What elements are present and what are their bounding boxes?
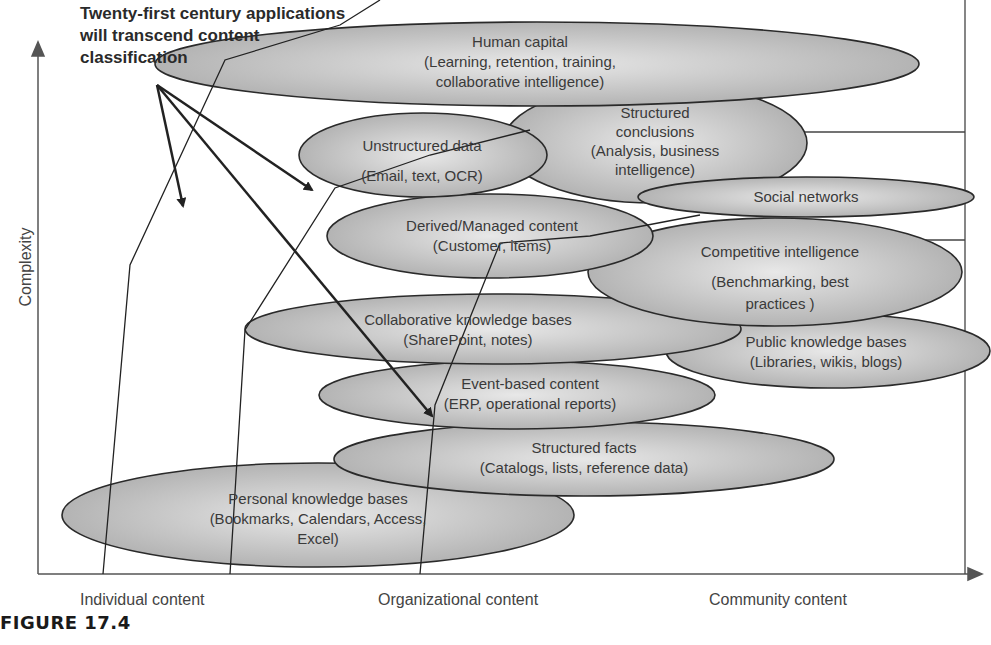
x-axis-label-organizational: Organizational content xyxy=(378,591,538,609)
annotation-note: Twenty-first century applications will t… xyxy=(80,3,345,69)
label-structured-conclusions: Structuredconclusions(Analysis, business… xyxy=(591,103,719,179)
label-derived-managed: Derived/Managed content(Customer, items) xyxy=(406,216,578,256)
x-axis-label-individual: Individual content xyxy=(80,591,205,609)
y-axis-label: Complexity xyxy=(17,227,35,306)
figure-caption: FIGURE 17.4 xyxy=(0,612,131,633)
label-public-kb: Public knowledge bases(Libraries, wikis,… xyxy=(746,332,907,372)
note-line-1: Twenty-first century applications xyxy=(80,3,345,25)
label-competitive-intelligence: Competitive intelligence(Benchmarking, b… xyxy=(701,241,859,315)
label-human-capital: Human capital(Learning, retention, train… xyxy=(424,32,616,92)
label-event-based: Event-based content(ERP, operational rep… xyxy=(444,374,616,414)
label-unstructured-data: Unstructured data(Email, text, OCR) xyxy=(361,131,483,191)
label-social-networks: Social networks xyxy=(753,187,858,207)
note-line-3: classification xyxy=(80,47,345,69)
x-axis-label-community: Community content xyxy=(709,591,847,609)
label-structured-facts: Structured facts(Catalogs, lists, refere… xyxy=(480,438,688,478)
note-line-2: will transcend content xyxy=(80,25,345,47)
label-collaborative-kb: Collaborative knowledge bases(SharePoint… xyxy=(364,310,572,350)
label-personal-kb: Personal knowledge bases(Bookmarks, Cale… xyxy=(210,489,427,549)
